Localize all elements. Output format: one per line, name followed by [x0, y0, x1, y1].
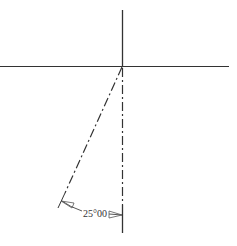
slanted-extension-line: [58, 193, 65, 208]
dimension-label: 25°00: [83, 208, 107, 219]
cad-drawing: 25°00: [0, 0, 237, 246]
slanted-centerline: [65, 67, 122, 193]
drawing-canvas: 25°00: [0, 0, 237, 246]
